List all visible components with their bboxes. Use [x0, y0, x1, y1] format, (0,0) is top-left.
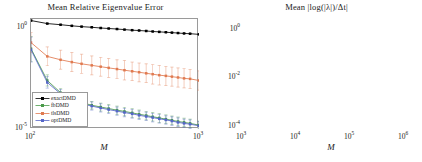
legend-item-tlsdmd[interactable]: tlsDMD [35, 110, 85, 118]
panel-right-ytick-2: 10-4 [213, 119, 240, 130]
series-exactdmd [29, 19, 200, 35]
panel-right-xtick-0: 103 [227, 130, 255, 141]
legend-item-fbdmd[interactable]: fbDMD [35, 102, 85, 110]
legend-label-optdmd: optDMD [50, 117, 71, 125]
panel-left-xtick-1: 103 [184, 130, 212, 141]
legend-item-exactdmd[interactable]: exactDMD [35, 95, 85, 103]
chart-panel-right: Mean |log(|λ|)/Δt| 100 10-2 10-4 103 104… [211, 0, 422, 162]
legend-key-fbdmd [35, 102, 50, 109]
panel-left-legend: exactDMD fbDMD tlsDMD [32, 92, 88, 127]
panel-right-xtick-3: 106 [389, 130, 417, 141]
panel-right-xtick-1: 104 [281, 130, 309, 141]
legend-key-exactdmd [35, 95, 50, 102]
chart-panel-left: Mean Relative Eigenvalue Error 100 10-5 … [0, 0, 211, 162]
legend-key-optdmd [35, 117, 50, 124]
panel-right-ytick-1: 10-2 [213, 70, 240, 81]
series-tlsdmd [29, 33, 200, 91]
panel-left-xtick-0: 102 [16, 130, 44, 141]
legend-label-tlsdmd: tlsDMD [50, 110, 69, 118]
figure-container: Mean Relative Eigenvalue Error 100 10-5 … [0, 0, 422, 162]
panel-right-ytick-0: 100 [213, 22, 240, 33]
panel-right-title: Mean |log(|λ|)/Δt| [211, 2, 422, 12]
panel-left-title: Mean Relative Eigenvalue Error [0, 2, 211, 12]
legend-item-optdmd[interactable]: optDMD [35, 117, 85, 125]
panel-right-xtick-2: 105 [335, 130, 363, 141]
panel-right-xaxis-label: M [311, 142, 351, 152]
panel-left-xaxis-label: M [84, 142, 124, 152]
legend-label-exactdmd: exactDMD [50, 95, 76, 103]
legend-key-tlsdmd [35, 110, 50, 117]
panel-left-ytick-0: 100 [0, 20, 27, 31]
legend-label-fbdmd: fbDMD [50, 102, 69, 110]
